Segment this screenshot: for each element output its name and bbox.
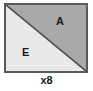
- quantity-label: x8: [0, 75, 93, 86]
- block-diagram: A E x8: [0, 0, 93, 91]
- piece-label-e: E: [22, 47, 29, 58]
- quilt-block-square: [4, 3, 88, 73]
- piece-label-a: A: [56, 16, 64, 27]
